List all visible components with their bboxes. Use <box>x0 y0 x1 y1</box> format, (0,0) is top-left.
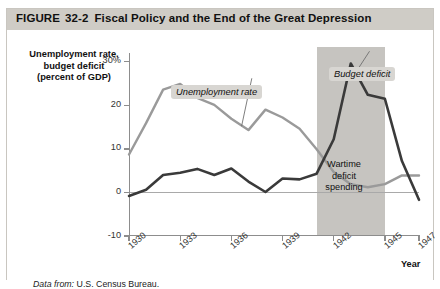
figure-label: FIGURE <box>16 12 60 24</box>
figure-title-text: Fiscal Policy and the End of the Great D… <box>94 12 371 24</box>
y-tick <box>124 61 130 62</box>
unemployment-callout: Unemployment rate <box>171 85 262 99</box>
wartime-label-line-3: spending <box>313 182 375 194</box>
source-text: U.S. Census Bureau. <box>77 279 160 289</box>
y-tick <box>124 105 130 106</box>
y-tick-label: 20 <box>85 99 121 109</box>
y-tick-label: 0 <box>85 186 121 196</box>
figure-number: 32-2 <box>65 12 88 24</box>
y-axis-title: Unemployment rate, budget deficit (perce… <box>21 49 127 84</box>
figure-container: FIGURE32-2Fiscal Policy and the End of t… <box>6 8 434 280</box>
x-axis-title: Year <box>401 259 420 269</box>
figure-title: FIGURE32-2Fiscal Policy and the End of t… <box>16 12 372 24</box>
y-tick <box>124 192 130 193</box>
deficit-callout: Budget deficit <box>329 67 395 81</box>
series-line-unemployment-rate <box>129 84 419 187</box>
source-prefix: Data from: <box>33 279 74 289</box>
wartime-label-line-2: deficit <box>313 171 375 183</box>
source-note: Data from: U.S. Census Bureau. <box>33 279 159 289</box>
figure-title-bar: FIGURE32-2Fiscal Policy and the End of t… <box>7 9 433 30</box>
y-tick-label: -10 <box>85 230 121 240</box>
wartime-label-line-1: Wartime <box>313 159 375 171</box>
chart-canvas: Unemployment rate, budget deficit (perce… <box>7 30 433 281</box>
y-tick <box>124 148 130 149</box>
series-line-budget-deficit <box>129 63 419 199</box>
y-tick-label: 10 <box>85 142 121 152</box>
y-tick-label: 30% <box>85 55 121 65</box>
wartime-band-label: Wartime deficit spending <box>313 159 375 194</box>
y-axis-title-line-3: (percent of GDP) <box>21 72 127 84</box>
